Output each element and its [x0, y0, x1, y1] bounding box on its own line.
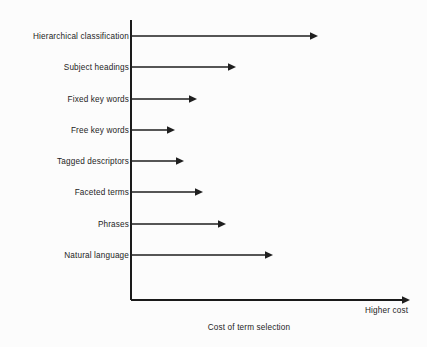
x-axis-end-label: Higher cost	[365, 306, 409, 315]
bar-label: Free key words	[71, 126, 129, 135]
bar-label: Natural language	[64, 251, 129, 260]
bar-label: Subject headings	[64, 63, 129, 72]
figure-container: Hierarchical classification Subject head…	[0, 0, 427, 347]
bar-label: Fixed key words	[68, 95, 129, 104]
chart-background	[0, 0, 427, 347]
bar-label: Tagged descriptors	[57, 157, 129, 166]
cost-of-term-selection-chart: Hierarchical classification Subject head…	[0, 0, 427, 347]
bar-label: Faceted terms	[75, 188, 129, 197]
bar-label: Hierarchical classification	[33, 32, 129, 41]
chart-caption: Cost of term selection	[208, 323, 291, 332]
bar-label: Phrases	[98, 220, 129, 229]
